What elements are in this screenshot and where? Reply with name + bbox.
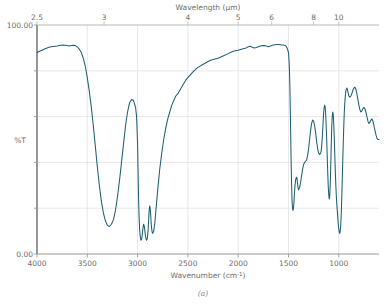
figure-caption: (a) <box>198 289 208 298</box>
x-tick-label: 2500 <box>178 259 197 268</box>
y-tick-label-min: 0.00 <box>16 250 33 259</box>
spectrum-plot: 40003500300025002000150010002.5345681010… <box>0 0 388 307</box>
ir-spectrum-figure: 40003500300025002000150010002.5345681010… <box>0 0 388 307</box>
top-axis-title: Wavelength (μm) <box>176 3 241 12</box>
top-x-tick-label: 5 <box>236 13 241 22</box>
top-x-tick-label: 4 <box>185 13 190 22</box>
top-x-tick-label: 8 <box>311 13 316 22</box>
x-tick-label: 1000 <box>329 259 348 268</box>
x-tick-label: 1500 <box>279 259 298 268</box>
top-x-tick-label: 6 <box>269 13 274 22</box>
x-tick-label: 3000 <box>128 259 147 268</box>
top-x-tick-label: 3 <box>102 13 107 22</box>
x-axis-title: Wavenumber (cm-1) <box>170 271 245 280</box>
y-tick-label-max: 100.00 <box>7 21 33 30</box>
x-tick-label: 3500 <box>78 259 97 268</box>
y-axis-title: %T <box>14 136 26 145</box>
top-x-tick-label: 10 <box>334 13 344 22</box>
spectrum-trace <box>37 44 379 240</box>
x-tick-label: 4000 <box>27 259 46 268</box>
x-tick-label: 2000 <box>229 259 248 268</box>
